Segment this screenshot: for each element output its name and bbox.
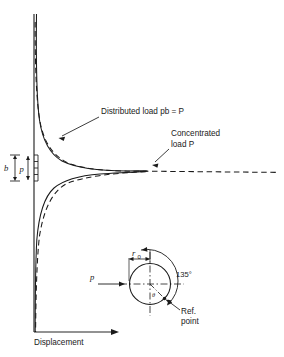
concentrated-load-curve-lower (36, 172, 146, 332)
displacement-axis-label: Displacement (34, 338, 84, 347)
p-pressure-label: p (19, 164, 25, 174)
concentrated-load-arrowhead (152, 163, 158, 167)
b-width-label: b (4, 163, 9, 173)
concentrated-load-annotation-line1: Concentrated (171, 129, 221, 138)
p-arrowhead-bottom (26, 176, 30, 180)
concentrated-load-annotation-line2: load P (171, 140, 195, 149)
figure-svg: b p Distributed load pb = P Concentrated… (0, 0, 284, 357)
b-arrowhead-bottom (13, 177, 17, 181)
inset-angle-label: 135° (176, 270, 192, 279)
inset-pressure-label: p (89, 272, 95, 282)
p-arrowhead-top (26, 156, 30, 160)
distributed-load-arrowhead (59, 137, 66, 141)
concentrated-load-leader (155, 149, 169, 162)
concentrated-load-curve (35, 22, 276, 172)
distributed-load-annotation: Distributed load pb = P (101, 107, 185, 116)
distributed-load-leader (62, 117, 99, 136)
inset-radius-label: r (132, 248, 136, 258)
engineering-figure: b p Distributed load pb = P Concentrated… (0, 0, 284, 357)
inset-pressure-arrowhead (119, 282, 125, 287)
displacement-axis-arrowhead (111, 329, 119, 335)
theta-angle-label: θ (152, 291, 155, 298)
ref-point-label-line1: Ref. (181, 307, 196, 316)
ref-point-label-line2: point (181, 317, 199, 326)
b-arrowhead-top (13, 155, 17, 159)
